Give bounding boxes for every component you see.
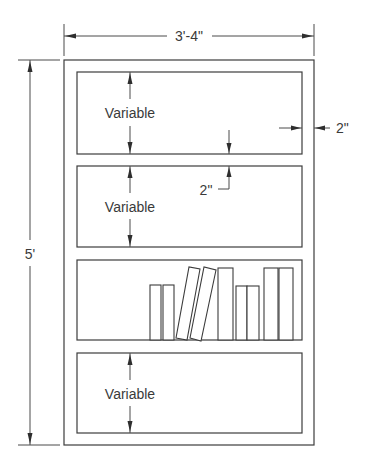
- height-label: 5': [25, 246, 35, 262]
- variable-label: Variable: [105, 386, 156, 402]
- cabinet-outer-frame: [64, 60, 314, 445]
- arrow-right-icon: [302, 34, 313, 39]
- height-dimension: 5': [18, 60, 60, 445]
- arrow-down-icon: [227, 143, 232, 153]
- arrow-up-icon: [128, 354, 133, 365]
- book: [264, 268, 278, 340]
- width-dimension: 3'-4": [64, 24, 314, 56]
- shelf-thickness-dimension: 2": [200, 130, 232, 198]
- book: [247, 286, 259, 340]
- variable-dimension-4: Variable: [105, 353, 156, 433]
- arrow-right-icon: [291, 126, 301, 131]
- arrow-down-icon: [128, 235, 133, 246]
- arrow-up-icon: [128, 167, 133, 178]
- book: [163, 285, 174, 340]
- variable-dimension-2: Variable: [105, 166, 156, 247]
- variable-label: Variable: [105, 199, 156, 215]
- arrow-left-icon: [65, 34, 76, 39]
- variable-label: Variable: [105, 105, 156, 121]
- arrow-down-icon: [128, 142, 133, 153]
- book: [150, 285, 161, 340]
- arrow-down-icon: [128, 421, 133, 432]
- arrow-left-icon: [315, 126, 325, 131]
- book: [236, 286, 247, 340]
- book: [218, 268, 233, 340]
- arrow-up-icon: [128, 73, 133, 84]
- arrow-up-icon: [227, 167, 232, 177]
- width-label: 3'-4": [175, 28, 203, 44]
- arrow-up-icon: [28, 61, 33, 72]
- shelf-thickness-label: 2": [200, 182, 213, 198]
- books-group: [150, 267, 293, 341]
- arrow-down-icon: [28, 433, 33, 444]
- side-thickness-label: 2": [336, 120, 349, 136]
- variable-dimension-1: Variable: [105, 72, 156, 154]
- bookshelf-drawing: 3'-4" 5' Variable Variable Vari: [0, 0, 371, 466]
- book: [279, 268, 293, 340]
